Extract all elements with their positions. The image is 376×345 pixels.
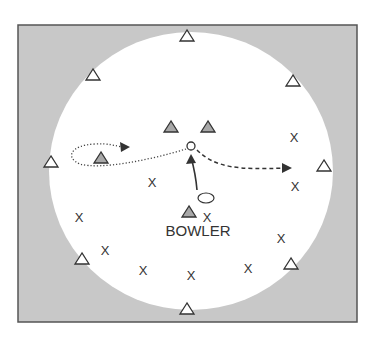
- batsman-circle-icon: [187, 142, 195, 150]
- bowler-label: BOWLER: [165, 222, 230, 239]
- x-mark: X: [148, 175, 157, 190]
- x-mark: X: [187, 268, 196, 283]
- cricket-field-diagram: XXXXXXXXXX BOWLER: [0, 0, 376, 345]
- x-mark: X: [139, 263, 148, 278]
- ball-ellipse-icon: [198, 193, 214, 203]
- x-mark: X: [244, 261, 253, 276]
- x-mark: X: [75, 210, 84, 225]
- x-mark: X: [277, 231, 286, 246]
- x-mark: X: [290, 130, 299, 145]
- x-mark: X: [101, 243, 110, 258]
- x-mark: X: [291, 179, 300, 194]
